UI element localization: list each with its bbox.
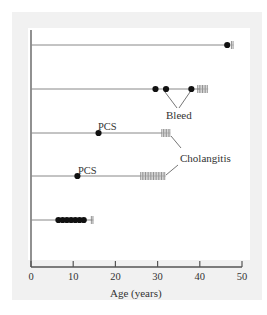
pcs-label-row3: PCS [98, 121, 117, 132]
event-dot [152, 86, 158, 92]
x-tick-label: 50 [237, 271, 248, 282]
patient-row [31, 41, 234, 49]
x-tick-label: 10 [68, 271, 79, 282]
timeline-chart: 01020304050 Bleed PCS PCS Cholangitis Ag… [0, 0, 267, 315]
x-tick-label: 40 [195, 271, 206, 282]
event-dot [81, 217, 87, 223]
x-axis-ticks: 01020304050 [28, 261, 247, 282]
patient-row [31, 216, 93, 224]
x-tick-label: 0 [28, 271, 33, 282]
patient-row [31, 172, 166, 180]
patient-row [31, 85, 208, 93]
cholangitis-label: Cholangitis [180, 152, 231, 164]
x-tick-label: 30 [152, 271, 163, 282]
bleed-label: Bleed [166, 109, 192, 121]
patient-rows [31, 41, 234, 224]
x-axis-label: Age (years) [110, 287, 162, 300]
event-dot [188, 86, 194, 92]
pcs-label-row4: PCS [78, 165, 97, 176]
x-tick-label: 20 [110, 271, 121, 282]
event-dot [224, 42, 230, 48]
event-dot [163, 86, 169, 92]
